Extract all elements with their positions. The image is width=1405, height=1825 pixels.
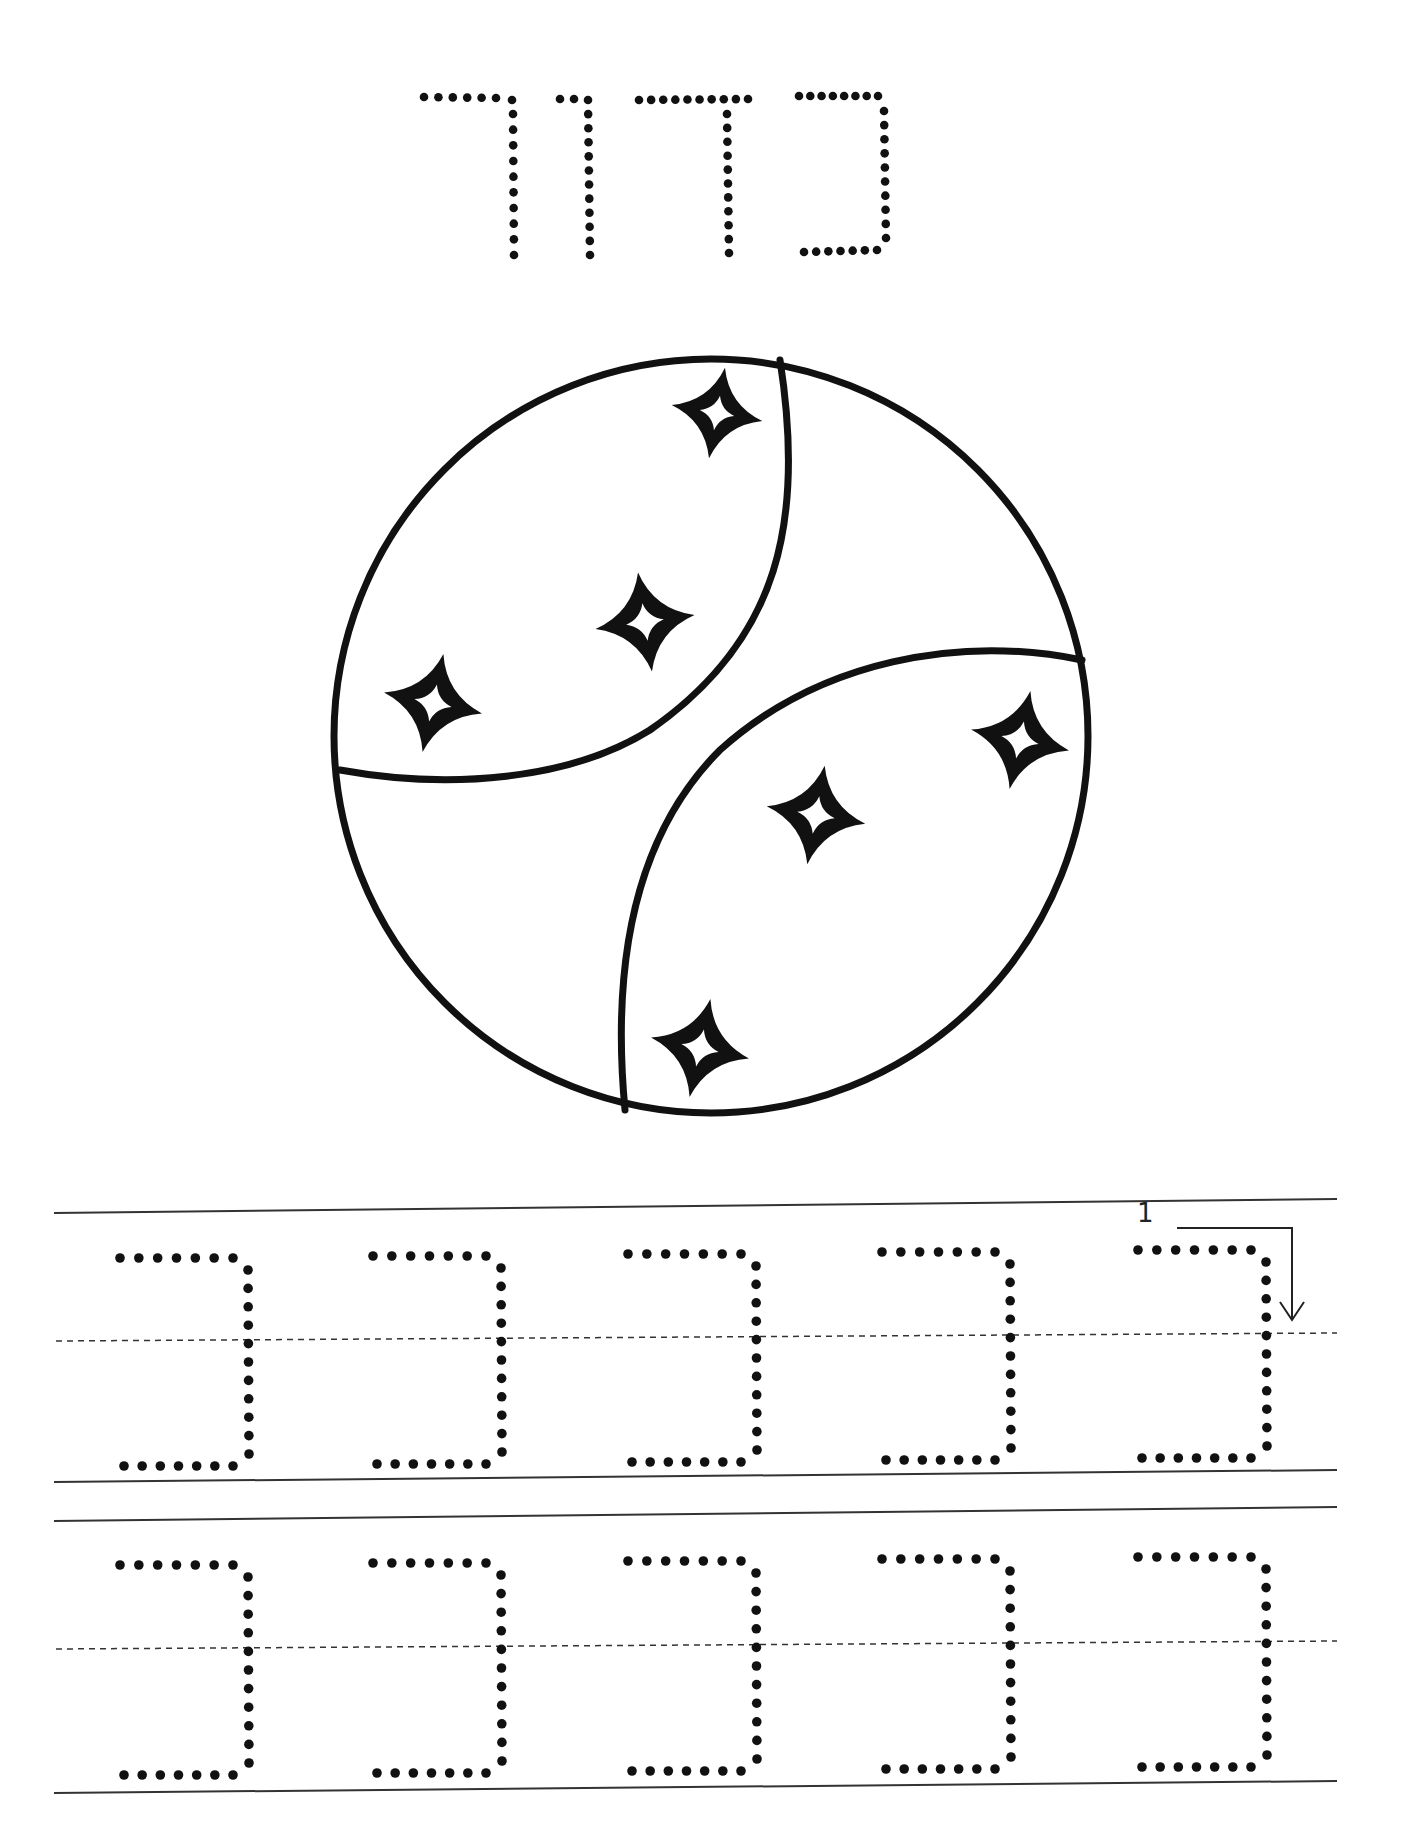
traceable-letter-kaf (623, 1249, 762, 1467)
traceable-letter-kaf (623, 1556, 762, 1776)
traceable-letter-kaf (368, 1558, 507, 1778)
stroke-step-number: 1 (1137, 1198, 1154, 1228)
row-baseline (54, 1781, 1337, 1793)
traceable-letter-kaf (1133, 1245, 1272, 1463)
traceable-letter-kaf (877, 1554, 1016, 1774)
row-baseline (54, 1470, 1337, 1482)
traceable-letter-kaf (368, 1251, 507, 1469)
traceable-letter-kaf (115, 1560, 254, 1780)
traceable-letter-kaf (877, 1247, 1016, 1465)
traceable-letter-kaf (1133, 1552, 1272, 1772)
row-top-line (54, 1507, 1337, 1521)
writing-practice-rows (0, 0, 1405, 1825)
stroke-direction-arrow-icon (1177, 1228, 1304, 1320)
traceable-letter-kaf (115, 1253, 254, 1471)
